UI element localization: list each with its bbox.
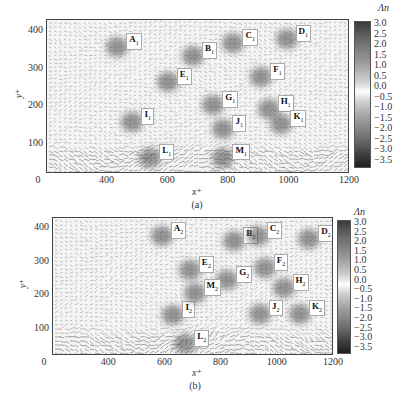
vortex-region (151, 226, 173, 246)
vortex-label-j2: J2 (269, 300, 283, 317)
vortex-region (179, 260, 201, 280)
vortex-label-m2: M2 (204, 279, 222, 296)
vortex-region (249, 304, 271, 324)
vortex-label-d2: D2 (318, 225, 333, 242)
vortex-region (174, 334, 196, 354)
vortex-label-a2: A2 (171, 222, 187, 239)
y-tick-label: 200 (23, 289, 49, 299)
colorbar-tick-label: −3.5 (354, 342, 372, 352)
vortex-region (247, 226, 269, 246)
vortex-region (184, 283, 206, 303)
colorbar-b (337, 220, 351, 354)
y-tick-label: 100 (23, 323, 49, 333)
y-tick-label: 400 (23, 222, 49, 232)
vortex-label-c2: C2 (267, 222, 283, 239)
x-tick-label: 400 (90, 357, 126, 367)
x-tick-label: 1000 (259, 357, 295, 367)
vortex-label-l2: L2 (194, 330, 209, 347)
vortex-label-e2: E2 (199, 256, 214, 273)
vortex-label-f2: F2 (274, 254, 289, 271)
x-tick-label: 600 (146, 357, 182, 367)
vortex-label-g2: G2 (236, 266, 252, 283)
panel-b: A2B2C2D2E2F2G2H2I2J2K2L2M2 100200300400 … (0, 0, 404, 409)
x-tick-label: 800 (203, 357, 239, 367)
plot-area-b: A2B2C2D2E2F2G2H2I2J2K2L2M2 (52, 217, 333, 355)
x-tick-label: 0 (26, 357, 62, 367)
y-axis-label-b: y⁺ (17, 279, 28, 289)
vortex-region (254, 258, 276, 278)
y-tick-label: 300 (23, 256, 49, 266)
vortex-label-k2: K2 (309, 300, 325, 317)
x-axis-label-b: x⁺ (192, 367, 202, 378)
vortex-region (273, 278, 295, 298)
vortex-region (289, 304, 311, 324)
vortex-label-i2: I2 (182, 301, 195, 318)
caption-b: (b) (175, 380, 215, 391)
x-tick-label: 1200 (315, 357, 351, 367)
vortex-label-h2: H2 (293, 274, 309, 291)
